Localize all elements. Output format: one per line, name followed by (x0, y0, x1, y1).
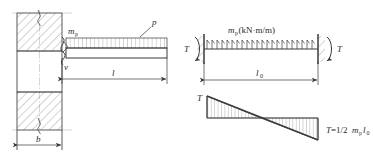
torque-diagram-group: T T =1/2 m p l 0 (197, 93, 370, 140)
length-label-group: l 0 (256, 68, 263, 79)
left-torque-label: T (184, 44, 190, 54)
length-dimension: l 0 (204, 62, 318, 85)
load-leader-line (140, 27, 151, 37)
distributed-torque-units: (kN·m/m) (239, 25, 276, 35)
length-label: l (256, 68, 259, 78)
result-m-subscript: p (359, 130, 362, 136)
distributed-load-band (66, 38, 167, 48)
left-panel-group: m p p v l b (12, 10, 167, 150)
distributed-torque-label: m (228, 25, 235, 35)
beam-body (66, 48, 167, 58)
right-reaction-torque: T (327, 37, 343, 61)
result-l-subscript: 0 (367, 130, 370, 136)
wall-lower-block (17, 92, 62, 130)
wall-upper-block (17, 13, 62, 51)
torque-peak-left-label: T (197, 93, 203, 103)
shear-label: v (64, 62, 68, 72)
length-label-subscript: 0 (260, 73, 263, 79)
torque-result-equation: T =1/2 m p l 0 (326, 125, 370, 136)
left-fixed-support (197, 34, 204, 64)
moment-label-group: m p (68, 26, 78, 37)
distributed-torque-arrows (207, 40, 315, 49)
right-panel-group: m p (kN·m/m) T T l 0 (184, 25, 343, 85)
moment-label: m (68, 26, 75, 36)
right-fixed-support (318, 34, 325, 64)
engineering-diagram-svg: m p p v l b (0, 0, 373, 160)
result-m: m (352, 125, 359, 135)
result-equals: =1/2 (331, 125, 348, 135)
right-torque-label: T (337, 44, 343, 54)
figure-root: m p p v l b (0, 0, 373, 160)
span-dimension: l (62, 58, 167, 84)
load-label: p (151, 17, 157, 27)
distributed-torque-label-group: m p (kN·m/m) (228, 25, 275, 36)
span-label: l (112, 68, 115, 78)
moment-label-subscript: p (75, 31, 78, 37)
wall-thickness-label: b (36, 134, 41, 144)
